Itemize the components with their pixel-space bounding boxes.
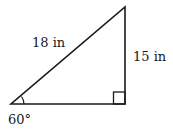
angle-arc <box>22 97 25 105</box>
angle-label: 60° <box>8 112 31 127</box>
hypotenuse-label: 18 in <box>32 35 66 50</box>
vertical-leg-label: 15 in <box>133 49 167 64</box>
triangle-diagram: 18 in 15 in 60° <box>0 0 173 136</box>
right-angle-marker <box>114 92 126 104</box>
triangle <box>11 7 125 104</box>
